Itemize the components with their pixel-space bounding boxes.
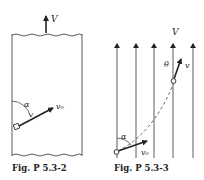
angle-arc-arrowhead-icon <box>29 113 33 117</box>
angle-alpha-label: α <box>121 132 127 141</box>
figure-p-5-3-3: V θ v α v₀ Fig. P 5.3-3 <box>114 27 193 173</box>
figure-p-5-3-2: V α v₀ Fig. P 5.3-2 <box>12 14 82 173</box>
stream-velocity-label: V <box>172 27 180 37</box>
initial-velocity-label: v₀ <box>141 148 150 157</box>
initial-velocity-arrow-icon <box>19 108 53 126</box>
particle-upper-icon <box>171 79 176 84</box>
diagram-canvas: V α v₀ Fig. P 5.3-2 V θ v α v₀ Fig. P 5.… <box>0 0 204 180</box>
figure-caption: Fig. P 5.3-3 <box>114 163 169 173</box>
velocity-arrow-icon <box>174 59 181 79</box>
angle-theta-label: θ <box>164 60 169 69</box>
stream-velocity-label: V <box>51 14 59 24</box>
velocity-label: v <box>185 61 190 70</box>
channel-top-break <box>12 34 82 36</box>
angle-alpha-label: α <box>24 100 30 109</box>
particle-lower-icon <box>114 150 119 155</box>
particle-square-icon <box>13 123 19 129</box>
initial-velocity-label: v₀ <box>56 102 65 111</box>
figure-caption: Fig. P 5.3-2 <box>12 163 67 173</box>
channel-bottom-break <box>12 154 82 156</box>
